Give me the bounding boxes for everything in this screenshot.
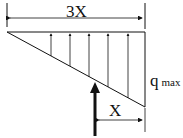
offset-label: X — [109, 102, 121, 119]
resultant-force-arrow — [90, 82, 100, 136]
total-length-label: 3X — [66, 3, 87, 20]
max-load-label: qmax — [150, 72, 180, 89]
load-symbol: q — [150, 71, 159, 90]
distributed-load-arrows — [51, 34, 128, 98]
load-subscript: max — [162, 76, 181, 88]
offset-dimension — [99, 108, 145, 132]
load-diagram — [0, 0, 183, 138]
triangular-load — [7, 32, 145, 107]
